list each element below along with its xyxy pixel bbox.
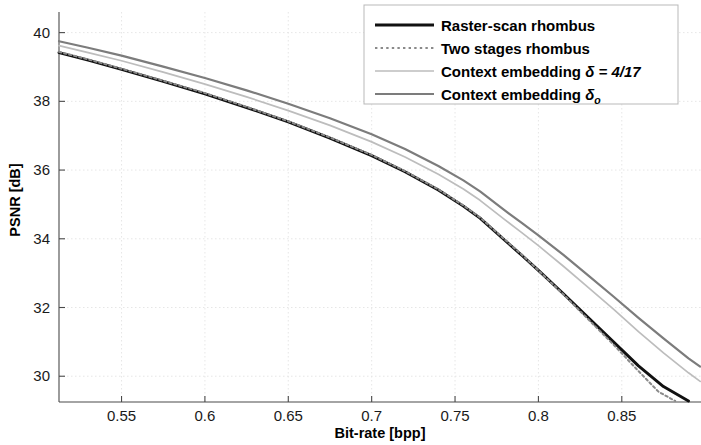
x-tick-label: 0.6 [194,407,215,424]
legend: Raster-scan rhombusTwo stages rhombusCon… [364,5,678,106]
legend-label: Two stages rhombus [441,40,590,57]
chart-canvas: 0.550.60.650.70.750.80.85303234363840 Bi… [0,0,701,445]
x-tick-label: 0.7 [361,407,382,424]
legend-label: Raster-scan rhombus [441,17,595,34]
y-tick-label: 32 [33,299,50,316]
y-axis-title: PSNR [dB] [7,163,23,236]
y-tick-label: 30 [33,367,50,384]
x-tick-label: 0.8 [528,407,549,424]
y-tick-label: 34 [33,230,50,247]
y-tick-label: 36 [33,161,50,178]
x-axis-title: Bit-rate [bpp] [334,425,425,441]
y-tick-label: 38 [33,92,50,109]
x-tick-label: 0.55 [107,407,136,424]
x-tick-label: 0.75 [440,407,469,424]
legend-label: Context embedding δ = 4/17 [441,63,641,80]
psnr-vs-bitrate-figure: 0.550.60.650.70.750.80.85303234363840 Bi… [0,0,701,445]
x-tick-label: 0.85 [607,407,636,424]
x-tick-label: 0.65 [274,407,303,424]
y-tick-label: 40 [33,24,50,41]
